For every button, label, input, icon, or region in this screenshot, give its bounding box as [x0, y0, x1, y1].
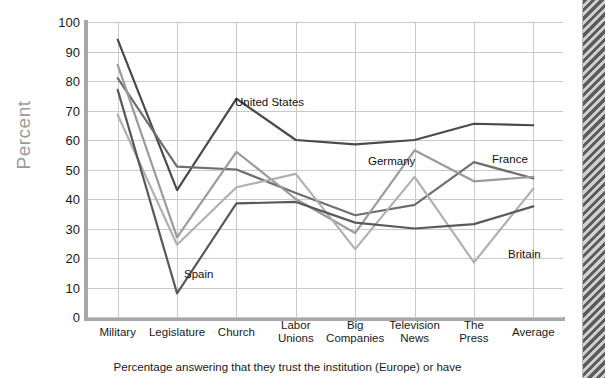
- y-tick: 20: [40, 252, 80, 265]
- line-spain: [118, 90, 534, 294]
- series-label-united-states: United States: [235, 96, 304, 108]
- y-axis-title: Percent: [13, 65, 35, 205]
- gridline-h: [88, 317, 563, 318]
- y-tick: 90: [40, 46, 80, 59]
- x-tick-labels: Military Legislature Church LaborUnions …: [88, 326, 563, 360]
- x-tick: Average: [487, 326, 579, 339]
- series-label-france: France: [492, 153, 528, 165]
- y-tick: 80: [40, 75, 80, 88]
- y-tick: 70: [40, 105, 80, 118]
- line-france: [118, 78, 534, 215]
- y-tick: 100: [40, 16, 80, 29]
- series-lines: [88, 22, 563, 317]
- chart-caption: Percentage answering that they trust the…: [0, 361, 575, 373]
- chart-page: Percent 100 90 80 70 60 50 40 30 20 10 0: [0, 0, 605, 378]
- y-tick: 30: [40, 223, 80, 236]
- y-tick: 50: [40, 164, 80, 177]
- book-binding-strip: [582, 0, 605, 378]
- y-tick: 40: [40, 193, 80, 206]
- plot-area: United States Spain Germany France Brita…: [88, 22, 563, 317]
- series-label-spain: Spain: [184, 268, 213, 280]
- line-britain: [118, 115, 534, 262]
- y-tick: 60: [40, 134, 80, 147]
- y-tick: 10: [40, 282, 80, 295]
- series-label-britain: Britain: [508, 248, 541, 260]
- y-tick-labels: 100 90 80 70 60 50 40 30 20 10 0: [34, 22, 80, 317]
- series-label-germany: Germany: [368, 155, 415, 167]
- y-tick: 0: [40, 311, 80, 324]
